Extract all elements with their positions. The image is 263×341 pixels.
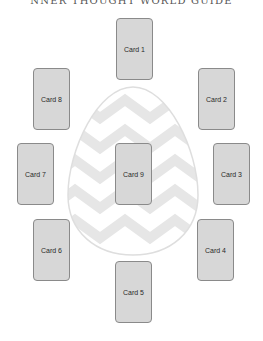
card-label: Card 3 [221, 171, 242, 178]
card-2[interactable]: Card 2 [198, 68, 235, 130]
card-label: Card 7 [25, 171, 46, 178]
card-6[interactable]: Card 6 [33, 219, 70, 281]
card-label: Card 1 [124, 46, 145, 53]
card-label: Card 6 [41, 247, 62, 254]
card-5[interactable]: Card 5 [115, 261, 152, 323]
card-4[interactable]: Card 4 [197, 219, 234, 281]
card-9[interactable]: Card 9 [115, 143, 152, 205]
card-1[interactable]: Card 1 [116, 18, 153, 80]
card-8[interactable]: Card 8 [33, 68, 70, 130]
card-7[interactable]: Card 7 [17, 143, 54, 205]
card-label: Card 4 [205, 247, 226, 254]
card-label: Card 5 [123, 289, 144, 296]
card-3[interactable]: Card 3 [213, 143, 250, 205]
card-label: Card 8 [41, 96, 62, 103]
card-label: Card 9 [123, 171, 144, 178]
card-label: Card 2 [206, 96, 227, 103]
